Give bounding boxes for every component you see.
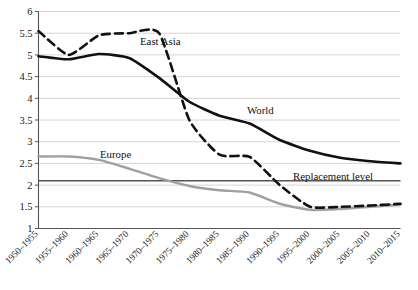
annotations-group: East AsiaWorldEuropeReplacement level	[100, 35, 373, 182]
fertility-rate-line-chart: 11.522.533.544.555.56 1950–19551955–1960…	[0, 0, 418, 290]
series-line-world	[39, 54, 401, 163]
ytick-label: 6	[27, 6, 32, 17]
ytick-label: 2	[27, 180, 32, 191]
ytick-label: 4	[27, 93, 33, 104]
series-line-europe	[39, 156, 401, 210]
ytick-label: 5	[27, 50, 32, 61]
series-label-replacement-level: Replacement level	[293, 170, 373, 182]
series-label-world: World	[247, 104, 274, 116]
ytick-label: 2.5	[19, 158, 32, 169]
xtick-labels-group: 1950–19551955–19601960–19651965–19701970…	[3, 229, 402, 266]
chart-canvas: 11.522.533.544.555.56 1950–19551955–1960…	[0, 0, 418, 290]
gridlines-group	[39, 12, 401, 229]
series-label-east-asia: East Asia	[140, 35, 181, 47]
ytick-labels-group: 11.522.533.544.555.56	[19, 6, 33, 234]
series-label-europe: Europe	[100, 148, 131, 160]
ytick-label: 3.5	[19, 115, 32, 126]
ytick-label: 3	[27, 136, 32, 147]
ytick-label: 1.5	[19, 201, 32, 212]
ytick-label: 4.5	[19, 71, 32, 82]
xtick-label: 2010–2015	[365, 229, 402, 266]
ytick-label: 5.5	[19, 28, 32, 39]
